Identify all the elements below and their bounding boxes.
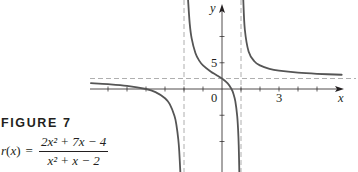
figure-label: FIGURE 7 bbox=[1, 116, 71, 130]
x-tick-label: 3 bbox=[276, 91, 282, 105]
formula-denominator: x² + x − 2 bbox=[47, 152, 99, 169]
curve-middle-branch bbox=[188, 0, 239, 172]
y-tick-label: 5 bbox=[211, 56, 217, 70]
formula-fraction: 2x² + 7x − 4 x² + x − 2 bbox=[39, 134, 108, 169]
axes bbox=[90, 4, 344, 172]
formula-equals: = bbox=[26, 143, 33, 159]
curve-right-branch bbox=[243, 0, 341, 75]
x-axis-label: x bbox=[337, 91, 344, 105]
y-axis-label: y bbox=[208, 1, 216, 15]
function-formula: r(x) = 2x² + 7x − 4 x² + x − 2 bbox=[1, 131, 108, 171]
function-curves bbox=[91, 0, 342, 172]
formula-numerator: 2x² + 7x − 4 bbox=[39, 134, 108, 152]
formula-lhs: r(x) bbox=[1, 143, 21, 159]
x-tick-label: 0 bbox=[211, 91, 217, 105]
